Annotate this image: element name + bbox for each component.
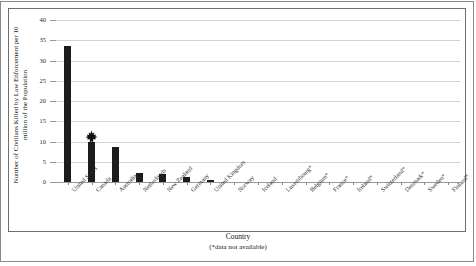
x-axis-tick-label: Sweden* — [426, 172, 447, 193]
x-axis-title: Country (*data not available) — [0, 232, 476, 252]
x-axis-tick-mark — [282, 182, 283, 185]
x-axis-title-main: Country — [0, 232, 476, 242]
x-axis-tick-label: Ireland* — [355, 173, 375, 193]
x-axis-tick-mark — [139, 182, 140, 185]
x-axis-tick-mark — [210, 182, 211, 185]
x-axis-tick-label: Germany — [189, 172, 210, 193]
x-axis-tick-labels: United StatesCanadaAustraliaNetherlandsN… — [0, 0, 476, 266]
x-axis-tick-mark — [353, 182, 354, 185]
x-axis-tick-label: Norway — [236, 174, 255, 193]
x-axis-tick-label: Netherlands — [141, 167, 167, 193]
x-axis-tick-label: Denmark* — [403, 170, 426, 193]
x-axis-title-note: (*data not available) — [0, 242, 476, 252]
x-axis-tick-mark — [115, 182, 116, 185]
x-axis-tick-mark — [377, 182, 378, 185]
x-axis-tick-mark — [187, 182, 188, 185]
x-axis-tick-mark — [234, 182, 235, 185]
x-axis-tick-label: France* — [331, 174, 350, 193]
x-axis-tick-label: Canada — [94, 175, 112, 193]
x-axis-tick-mark — [448, 182, 449, 185]
x-axis-tick-mark — [92, 182, 93, 185]
x-axis-tick-label: Iceland — [260, 175, 278, 193]
x-axis-tick-label: Australia — [117, 172, 138, 193]
x-axis-tick-mark — [163, 182, 164, 185]
chart-page: Number of Civilians Killed by Law Enforc… — [0, 0, 476, 266]
x-axis-tick-mark — [329, 182, 330, 185]
x-axis-tick-mark — [306, 182, 307, 185]
x-axis-tick-mark — [68, 182, 69, 185]
x-axis-tick-label: Switzerland* — [379, 165, 407, 193]
x-axis-tick-mark — [401, 182, 402, 185]
x-axis-tick-mark — [258, 182, 259, 185]
x-axis-tick-label: Belgium* — [308, 171, 330, 193]
x-axis-tick-mark — [424, 182, 425, 185]
x-axis-tick-label: Finland* — [450, 172, 471, 193]
